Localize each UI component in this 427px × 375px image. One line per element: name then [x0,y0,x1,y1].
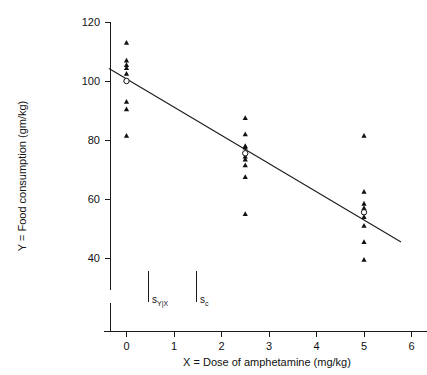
data-point-marker [243,115,248,120]
y-tick-labels: 120 100 80 60 40 [82,16,100,264]
group-mean-marker [361,210,366,215]
plot-canvas: 120 100 80 60 40 0 1 2 3 4 5 6 X = Dos [0,0,427,375]
data-point-marker [361,239,366,244]
y-tick-label: 60 [88,193,100,205]
y-tick-label: 40 [88,252,100,264]
x-tick-label: 4 [313,340,319,352]
data-point-marker [243,132,248,137]
y-tick-label: 80 [88,134,100,146]
regression-line [109,69,401,243]
data-point-marker [361,189,366,194]
data-point-marker [243,162,248,167]
x-tick-label: 0 [123,340,129,352]
y-axis-title: Y = Food consumption (gm/kg) [16,101,28,252]
x-tick-marks [127,332,412,338]
data-point-marker [124,58,129,63]
data-point-marker [124,133,129,138]
data-point-marker [124,40,129,45]
y-tick-label: 100 [82,75,100,87]
x-tick-label: 3 [266,340,272,352]
y-tick-label: 120 [82,16,100,28]
s-c-label: sc [200,294,209,307]
s-y-given-x-label: sY|X [152,294,168,308]
data-point-marker [361,201,366,206]
group-mean-marker [124,78,129,83]
x-tick-label: 6 [408,340,414,352]
data-point-marker [124,99,129,104]
x-axis-title: X = Dose of amphetamine (mg/kg) [183,356,351,368]
data-point-marker [243,174,248,179]
data-markers-layer [124,40,367,262]
x-tick-labels: 0 1 2 3 4 5 6 [123,340,414,352]
s-c-subscript: c [205,300,209,307]
data-point-marker [124,106,129,111]
y-tick-marks [105,22,111,258]
x-tick-label: 5 [361,340,367,352]
data-point-marker [361,223,366,228]
x-tick-label: 1 [171,340,177,352]
axis-corner-elbow [111,303,427,332]
x-tick-label: 2 [218,340,224,352]
scatter-plot-figure: 120 100 80 60 40 0 1 2 3 4 5 6 X = Dos [0,0,427,375]
data-point-marker [243,211,248,216]
data-point-marker [361,257,366,262]
data-point-marker [124,71,129,76]
s-y-given-x-subscript: Y|X [157,300,168,308]
annotation-labels: sY|X sc [152,294,209,308]
group-mean-marker [243,151,248,156]
data-point-marker [361,133,366,138]
